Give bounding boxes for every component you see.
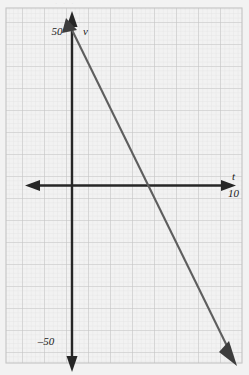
y-tick-label-50: 50 xyxy=(52,25,64,37)
x-tick-label-10: 10 xyxy=(228,187,240,199)
y-tick-label-minus-50: –50 xyxy=(37,335,55,347)
v-axis-label: v xyxy=(83,25,88,37)
graph-figure: · · · xyxy=(0,0,249,375)
coordinate-plane-svg: 50 v t 10 –50 xyxy=(0,0,249,375)
